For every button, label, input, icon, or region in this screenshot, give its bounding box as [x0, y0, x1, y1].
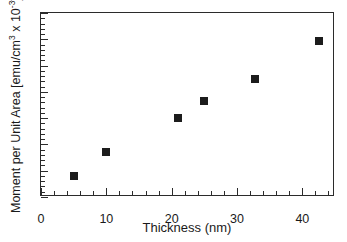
data-point-marker: [70, 172, 78, 180]
x-axis-tick-label: 10: [86, 213, 126, 226]
y-axis-title-post: ]: [9, 0, 23, 1]
x-axis-tick-label: 40: [282, 213, 322, 226]
data-point-marker: [200, 97, 208, 105]
y-axis-title-pre: Moment per Unit Area [emu/cm: [9, 40, 23, 213]
chart-figure: Moment per Unit Area [emu/cm3 x 10-3] Th…: [0, 0, 347, 242]
data-series: [41, 13, 333, 195]
y-axis-title-sup-exp: -3: [7, 1, 17, 9]
data-point-marker: [102, 148, 110, 156]
data-point-marker: [315, 37, 323, 45]
x-axis-tick-label: 20: [152, 213, 192, 226]
y-axis-major-tick: [41, 197, 48, 198]
y-axis-title-text: Moment per Unit Area [emu/cm3 x 10-3]: [9, 0, 23, 213]
data-point-marker: [174, 114, 182, 122]
y-axis-title-mid: x 10: [9, 8, 23, 35]
y-axis-title: Moment per Unit Area [emu/cm3 x 10-3]: [6, 13, 24, 213]
data-point-marker: [251, 75, 259, 83]
plot-area: 01234567010203040: [40, 12, 334, 196]
x-axis-tick-label: 0: [21, 213, 61, 226]
y-axis-title-sup-cm: 3: [7, 35, 17, 40]
x-axis-tick-label: 30: [217, 213, 257, 226]
